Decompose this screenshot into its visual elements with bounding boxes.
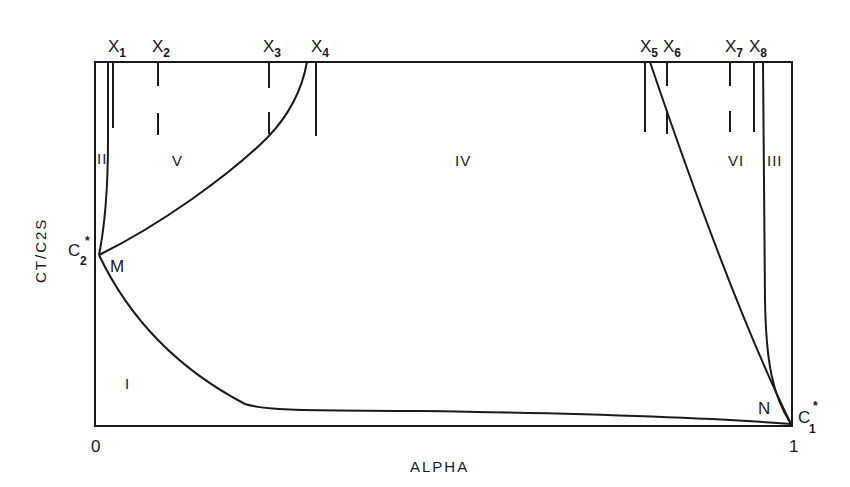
region-i-label: I bbox=[125, 375, 130, 392]
c2-star-label: C bbox=[68, 241, 80, 260]
m-point-label: M bbox=[110, 257, 124, 276]
x-marker-lines bbox=[113, 62, 754, 136]
c1-star-superscript: * bbox=[813, 399, 818, 413]
region-ii-label: II bbox=[97, 150, 107, 167]
region-v-label: V bbox=[172, 152, 183, 169]
region-iii-label: III bbox=[767, 152, 783, 169]
phase-diagram: X1 X2 X3 X4 X5 X6 X7 X8 II V IV VI III I… bbox=[0, 0, 850, 487]
c1-star-subscript: 1 bbox=[809, 422, 816, 436]
x5-label: X5 bbox=[640, 37, 658, 60]
x7-label: X7 bbox=[725, 37, 743, 60]
x6-label: X6 bbox=[663, 37, 681, 60]
curve-region-i-boundary bbox=[99, 255, 791, 424]
c2-star-superscript: * bbox=[85, 234, 90, 248]
x1-label: X1 bbox=[108, 37, 126, 60]
x-tick-0: 0 bbox=[91, 437, 100, 456]
curve-region-iii-boundary bbox=[763, 62, 791, 424]
x8-label: X8 bbox=[749, 37, 767, 60]
y-axis-title: CT/C2S bbox=[32, 218, 49, 283]
x2-label: X2 bbox=[152, 37, 170, 60]
x4-label: X4 bbox=[311, 37, 329, 60]
point-labels: C * 2 M N C * 1 bbox=[68, 234, 818, 436]
x-marker-labels: X1 X2 X3 X4 X5 X6 X7 X8 bbox=[108, 37, 767, 60]
n-point-label: N bbox=[758, 399, 770, 418]
x3-label: X3 bbox=[263, 37, 281, 60]
curve-region-v-boundary bbox=[99, 62, 307, 255]
x-tick-1: 1 bbox=[789, 437, 798, 456]
region-iv-label: IV bbox=[455, 152, 471, 169]
c2-star-subscript: 2 bbox=[80, 254, 87, 268]
boundary-curves bbox=[99, 62, 791, 424]
region-vi-label: VI bbox=[728, 152, 744, 169]
x-axis-title: ALPHA bbox=[410, 458, 469, 475]
plot-frame bbox=[95, 62, 792, 426]
region-labels: II V IV VI III I bbox=[97, 150, 783, 392]
